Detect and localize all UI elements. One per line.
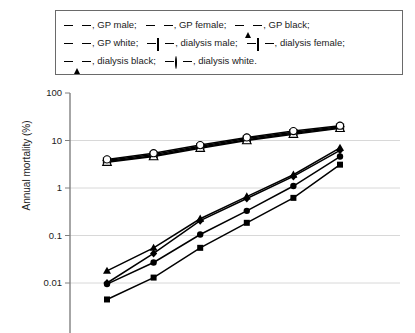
plot-area (0, 0, 415, 333)
chart-figure: , GP male; , GP female; , GP black; , GP… (0, 0, 415, 333)
data-series (104, 162, 343, 303)
data-series (104, 153, 343, 287)
gridlines (70, 141, 400, 284)
data-series (103, 146, 343, 287)
y-axis-ticks (65, 93, 70, 283)
data-series (103, 144, 344, 274)
data-series-layer (103, 122, 345, 302)
